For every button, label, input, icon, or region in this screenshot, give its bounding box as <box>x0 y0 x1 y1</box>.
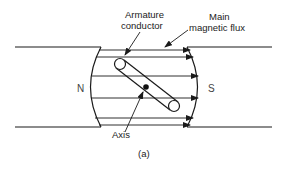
armature-label-line1: Armature <box>125 9 164 20</box>
armature-flux-diagram: Armature conductor Main magnetic flux N … <box>0 0 287 169</box>
axis-label: Axis <box>112 129 130 140</box>
rotation-axis-dot <box>143 84 149 90</box>
figure-caption: (a) <box>138 148 150 159</box>
armature-label-line2: conductor <box>121 20 163 31</box>
south-pole-piece <box>187 47 272 127</box>
flux-label-line1: Main <box>209 11 230 22</box>
leader-lines <box>125 30 188 132</box>
north-pole-piece <box>15 47 101 127</box>
north-pole-label: N <box>77 83 84 94</box>
south-pole-label: S <box>208 83 215 94</box>
flux-label-line2: magnetic flux <box>189 22 245 33</box>
